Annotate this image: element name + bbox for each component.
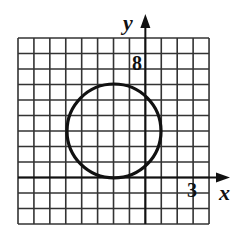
x-axis-label: x — [218, 180, 230, 205]
x-tick-label: 3 — [187, 179, 197, 201]
grid — [18, 38, 209, 224]
coordinate-diagram: 8 3 y x — [0, 0, 236, 228]
y-axis-label: y — [120, 10, 133, 35]
y-axis-arrow-icon — [140, 14, 150, 28]
y-tick-label: 8 — [132, 52, 142, 74]
